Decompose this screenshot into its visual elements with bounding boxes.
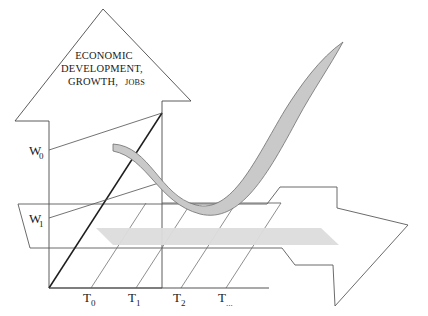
time-label-t2-base: T [173, 290, 181, 305]
time-label-t1-base: T [128, 290, 136, 305]
time-label-tn-sub: ... [226, 298, 233, 308]
arrow-text-line-3: GROWTH, [68, 76, 118, 87]
arrow-text-line-4: JOBS [125, 78, 145, 87]
time-label-t0-sub: 0 [91, 298, 96, 308]
wage-label-w1-sub: 1 [39, 219, 44, 229]
figure-background [0, 0, 428, 316]
arrow-text-line-2: DEVELOPMENT, [61, 63, 143, 74]
time-label-t1-sub: 1 [136, 298, 141, 308]
time-label-t2-sub: 2 [181, 298, 186, 308]
time-label-t0-base: T [83, 290, 91, 305]
economic-j-curve-figure: W 0 W 1 T 0 T 1 T 2 T ... ECONOMIC DEVEL… [0, 0, 428, 316]
floor-highlight-band [96, 228, 339, 245]
time-label-tn-base: T [218, 290, 226, 305]
arrow-text-line-1: ECONOMIC [75, 50, 133, 61]
wage-label-w0-sub: 0 [39, 151, 44, 161]
